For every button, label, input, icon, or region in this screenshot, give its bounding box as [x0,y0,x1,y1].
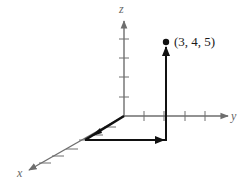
coordinate-diagram: z y x (3, 4, 5) [0,0,248,194]
x-axis-label: x [16,166,23,180]
z-axis-label: z [118,2,124,16]
point-label: (3, 4, 5) [174,34,215,49]
y-axis-label: y [230,109,237,123]
z-axis [119,21,129,116]
vector-path [85,39,169,141]
vector-x-component [85,116,124,140]
y-axis [124,111,228,121]
point-marker [163,39,169,45]
